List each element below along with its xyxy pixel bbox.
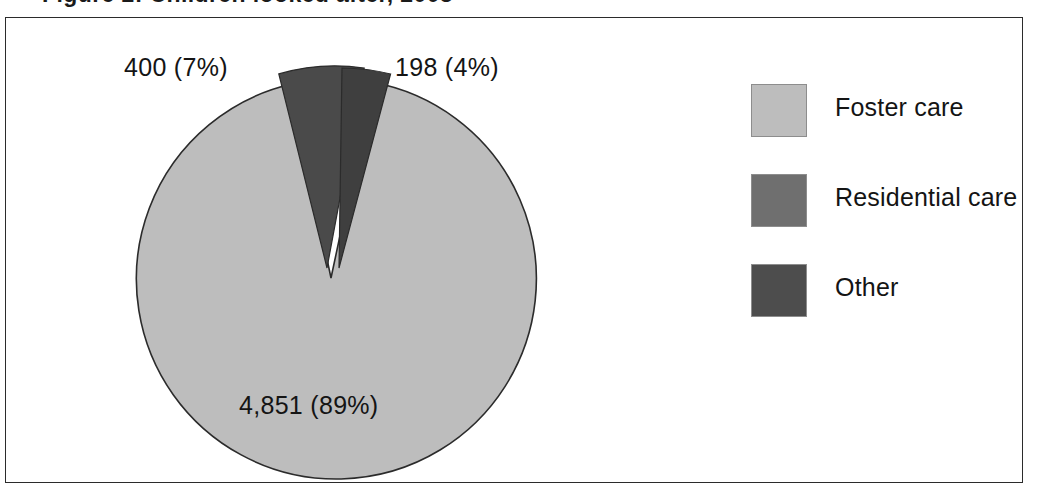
legend-item-foster-care[interactable]: Foster care bbox=[751, 84, 1021, 174]
legend-label-foster-care: Foster care bbox=[835, 93, 964, 122]
figure-title-text: Figure 2: Children looked after, 2003 bbox=[42, 0, 453, 8]
legend-swatch-other bbox=[751, 264, 807, 317]
legend: Foster care Residential care Other bbox=[751, 84, 1021, 354]
legend-label-residential-care: Residential care bbox=[835, 183, 1017, 212]
legend-swatch-foster-care bbox=[751, 84, 807, 137]
legend-label-other: Other bbox=[835, 273, 899, 302]
data-label-other: 198 (4%) bbox=[395, 53, 499, 82]
legend-item-residential-care[interactable]: Residential care bbox=[751, 174, 1021, 264]
pie-chart: 400 (7%) 198 (4%) 4,851 (89%) bbox=[6, 18, 706, 484]
data-label-foster-care: 4,851 (89%) bbox=[239, 391, 379, 420]
figure-title-clipped: Figure 2: Children looked after, 2003 bbox=[0, 0, 1041, 15]
data-label-residential-care: 400 (7%) bbox=[124, 53, 228, 82]
legend-item-other[interactable]: Other bbox=[751, 264, 1021, 354]
chart-frame: 400 (7%) 198 (4%) 4,851 (89%) Foster car… bbox=[5, 17, 1023, 483]
legend-swatch-residential-care bbox=[751, 174, 807, 227]
